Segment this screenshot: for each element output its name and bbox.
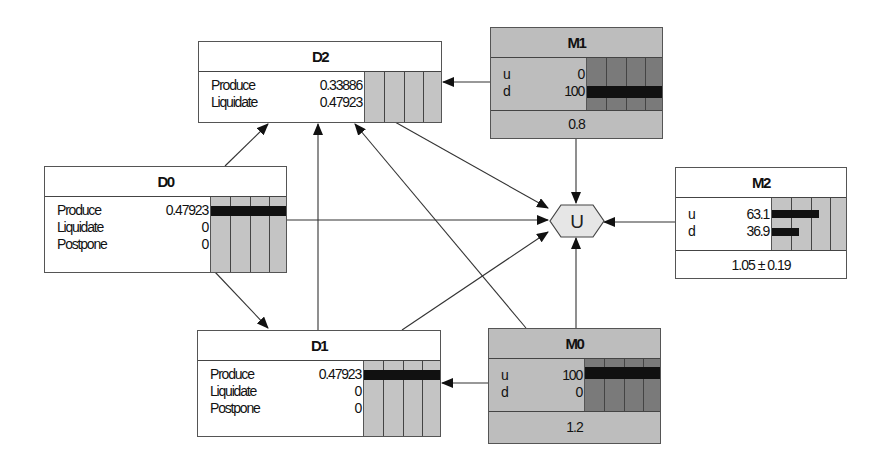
state-bars	[363, 361, 440, 436]
node-title: M0	[489, 329, 660, 359]
state-label: Liquidate	[45, 219, 125, 236]
state-bar-d	[772, 228, 799, 236]
chance-node-m1[interactable]: M1 u0 d100 0.8	[490, 27, 663, 139]
state-bars	[364, 72, 441, 122]
state-row: d0	[489, 384, 584, 401]
state-bars	[771, 198, 846, 250]
state-row: Postpone0	[45, 236, 210, 253]
edge-d1-u	[402, 232, 548, 330]
state-bar-u	[585, 367, 660, 379]
state-label: d	[491, 83, 531, 100]
state-value: 63.1	[716, 206, 771, 223]
state-row: Produce0.33886	[199, 77, 364, 94]
utility-node-u[interactable]: U	[549, 204, 605, 238]
state-label: Produce	[45, 202, 125, 219]
state-label: d	[676, 223, 716, 240]
node-title: D2	[199, 42, 441, 72]
state-value: 0	[529, 384, 584, 401]
state-label: Produce	[198, 366, 278, 383]
state-row: Produce0.47923	[45, 202, 210, 219]
utility-node-label: U	[570, 211, 584, 232]
state-label: Postpone	[198, 400, 278, 417]
state-bar-produce	[211, 206, 286, 216]
state-label: Liquidate	[199, 94, 284, 111]
node-expected-value: 1.05 ± 0.19	[676, 250, 846, 279]
node-title: D0	[45, 167, 286, 197]
node-expected-value: 0.8	[491, 110, 662, 138]
state-label: d	[489, 384, 529, 401]
state-bars	[210, 197, 286, 272]
node-expected-value: 1.2	[489, 411, 660, 443]
state-bars	[586, 58, 662, 110]
state-value: 0	[278, 383, 363, 400]
state-bar-d	[587, 86, 662, 98]
state-label: Liquidate	[198, 383, 278, 400]
state-value: 0.33886	[284, 77, 364, 94]
decision-node-d0[interactable]: D0 Produce0.47923 Liquidate0 Postpone0	[44, 166, 287, 273]
state-label: u	[491, 66, 531, 83]
state-value: 100	[531, 83, 586, 100]
state-row: Produce0.47923	[198, 366, 363, 383]
state-label: u	[489, 367, 529, 384]
node-title: M2	[676, 168, 846, 198]
state-value: 36.9	[716, 223, 771, 240]
state-bar-produce	[364, 370, 440, 380]
state-value: 0	[125, 236, 210, 253]
state-row: Liquidate0	[198, 383, 363, 400]
state-row: u63.1	[676, 206, 771, 223]
state-row: u100	[489, 367, 584, 384]
edge-m0-d2	[355, 124, 526, 328]
state-row: d36.9	[676, 223, 771, 240]
chance-node-m0[interactable]: M0 u100 d0 1.2	[488, 328, 661, 444]
state-value: 0	[125, 219, 210, 236]
edge-d0-d2	[225, 124, 268, 166]
state-label: Postpone	[45, 236, 125, 253]
node-title: M1	[491, 28, 662, 58]
state-value: 0.47923	[125, 202, 210, 219]
state-label: Produce	[199, 77, 284, 94]
state-row: Liquidate0.47923	[199, 94, 364, 111]
state-row: Postpone0	[198, 400, 363, 417]
state-value: 100	[529, 367, 584, 384]
decision-node-d2[interactable]: D2 Produce0.33886 Liquidate0.47923	[198, 41, 442, 123]
edge-d0-d1	[215, 272, 268, 328]
state-bars	[584, 359, 660, 411]
state-label: u	[676, 206, 716, 223]
state-value: 0	[278, 400, 363, 417]
state-row: d100	[491, 83, 586, 100]
chance-node-m2[interactable]: M2 u63.1 d36.9 1.05 ± 0.19	[675, 167, 847, 279]
state-value: 0.47923	[284, 94, 364, 111]
state-bar-u	[772, 210, 819, 218]
state-value: 0	[531, 66, 586, 83]
state-row: u0	[491, 66, 586, 83]
decision-node-d1[interactable]: D1 Produce0.47923 Liquidate0 Postpone0	[197, 330, 441, 437]
node-title: D1	[198, 331, 440, 361]
state-value: 0.47923	[278, 366, 363, 383]
state-row: Liquidate0	[45, 219, 210, 236]
